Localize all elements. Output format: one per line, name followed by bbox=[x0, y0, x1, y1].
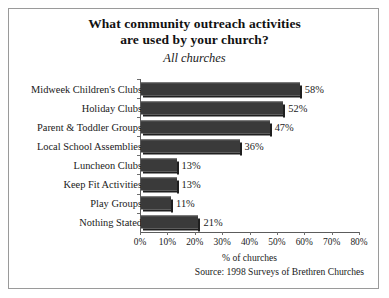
bar-value-label: 11% bbox=[176, 198, 195, 209]
x-axis-title: % of churches bbox=[140, 252, 359, 263]
bar-row: Nothing Stated21% bbox=[9, 213, 380, 232]
x-axis-tick-label: 0% bbox=[134, 237, 147, 247]
x-axis-tick bbox=[222, 232, 223, 235]
bar-fill bbox=[141, 216, 198, 229]
bar-value-label: 13% bbox=[182, 179, 201, 190]
category-label: Nothing Stated bbox=[79, 217, 142, 228]
x-axis-tick bbox=[359, 232, 360, 235]
bar-row: Midweek Children's Clubs58% bbox=[9, 79, 380, 98]
bar-fill bbox=[141, 82, 300, 95]
x-axis-tick-label: 80% bbox=[350, 237, 367, 247]
bar-row: Holiday Clubs52% bbox=[9, 98, 380, 117]
x-axis-tick-label: 30% bbox=[214, 237, 231, 247]
x-axis-tick bbox=[140, 232, 141, 235]
bar-value-label: 52% bbox=[288, 102, 307, 113]
bar-rows: Midweek Children's Clubs58%Holiday Clubs… bbox=[9, 79, 380, 232]
bar bbox=[141, 197, 171, 210]
category-label: Midweek Children's Clubs bbox=[31, 83, 142, 94]
x-axis-tick bbox=[195, 232, 196, 235]
x-axis-tick bbox=[332, 232, 333, 235]
bar-fill bbox=[141, 178, 177, 191]
bar bbox=[141, 139, 240, 152]
x-axis-tick-label: 10% bbox=[159, 237, 176, 247]
category-label: Luncheon Clubs bbox=[74, 159, 142, 170]
bar-value-label: 13% bbox=[182, 159, 201, 170]
bar bbox=[141, 158, 177, 171]
x-axis-tick-label: 70% bbox=[323, 237, 340, 247]
y-axis-tick bbox=[137, 213, 140, 214]
x-axis-tick bbox=[304, 232, 305, 235]
bar bbox=[141, 101, 283, 114]
y-axis-tick bbox=[137, 136, 140, 137]
x-axis-ticks: 0%10%20%30%40%50%60%70%80% bbox=[140, 232, 359, 252]
x-axis-tick-label: 60% bbox=[296, 237, 313, 247]
y-axis-tick bbox=[137, 174, 140, 175]
bar-value-label: 47% bbox=[275, 121, 294, 132]
x-axis-tick bbox=[167, 232, 168, 235]
x-axis-tick bbox=[250, 232, 251, 235]
bar-row: Keep Fit Activities13% bbox=[9, 174, 380, 193]
bar bbox=[141, 120, 270, 133]
y-axis-tick bbox=[137, 98, 140, 99]
x-axis-tick-label: 20% bbox=[186, 237, 203, 247]
x-axis-tick-label: 40% bbox=[241, 237, 258, 247]
x-axis-tick bbox=[277, 232, 278, 235]
bar-row: Local School Assemblies36% bbox=[9, 136, 380, 155]
bar-value-label: 36% bbox=[245, 140, 264, 151]
category-label: Play Groups bbox=[90, 198, 142, 209]
category-label: Local School Assemblies bbox=[37, 140, 142, 151]
bar-row: Parent & Toddler Groups47% bbox=[9, 117, 380, 136]
y-axis-tick bbox=[137, 194, 140, 195]
category-label: Parent & Toddler Groups bbox=[37, 121, 142, 132]
bar-fill bbox=[141, 120, 270, 133]
bar-fill bbox=[141, 197, 171, 210]
category-label: Keep Fit Activities bbox=[64, 179, 143, 190]
plot-area: Midweek Children's Clubs58%Holiday Clubs… bbox=[9, 9, 380, 290]
bar-value-label: 58% bbox=[305, 83, 324, 94]
source-note: Source: 1998 Surveys of Brethren Churche… bbox=[195, 266, 364, 277]
bar bbox=[141, 82, 300, 95]
bar bbox=[141, 178, 177, 191]
category-label: Holiday Clubs bbox=[82, 102, 142, 113]
bar-fill bbox=[141, 101, 283, 114]
bar-row: Luncheon Clubs13% bbox=[9, 155, 380, 174]
bar-fill bbox=[141, 139, 240, 152]
y-axis-tick bbox=[137, 79, 140, 80]
bar-row: Play Groups11% bbox=[9, 194, 380, 213]
bar-value-label: 21% bbox=[203, 217, 222, 228]
x-axis-tick-label: 50% bbox=[268, 237, 285, 247]
y-axis-tick bbox=[137, 155, 140, 156]
chart-frame: What community outreach activities are u… bbox=[8, 8, 379, 289]
y-axis-tick bbox=[137, 117, 140, 118]
bar bbox=[141, 216, 198, 229]
bar-fill bbox=[141, 158, 177, 171]
